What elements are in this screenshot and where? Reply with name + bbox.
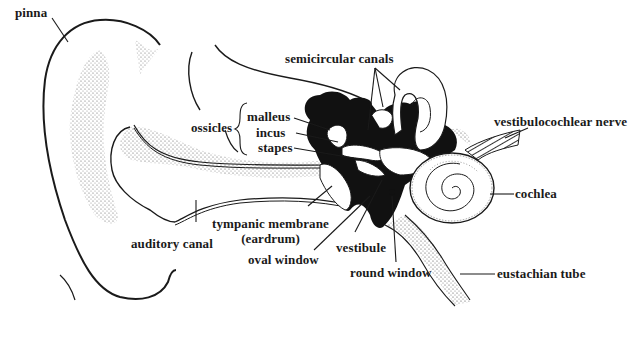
label-eardrum: (eardrum)	[208, 232, 333, 246]
label-ossicles: ossicles	[191, 121, 232, 135]
label-malleus: malleus	[247, 110, 290, 124]
label-semicircular-canals: semicircular canals	[285, 52, 394, 66]
label-tympanic-membrane: tympanic membrane	[208, 217, 333, 231]
leader-pinna	[52, 18, 68, 42]
label-round-window: round window	[350, 266, 432, 280]
ear-anatomy-diagram: pinna semicircular canals ossicles malle…	[0, 0, 644, 342]
round-window-dot	[389, 189, 395, 195]
cochlea-shape	[410, 153, 494, 223]
eustachian-tube-shape	[385, 215, 470, 306]
ossicles-brace	[235, 103, 247, 155]
label-auditory-canal: auditory canal	[131, 237, 213, 251]
label-pinna: pinna	[15, 6, 47, 20]
label-incus: incus	[256, 126, 285, 140]
label-stapes: stapes	[258, 141, 293, 155]
label-vestibulocochlear-nerve: vestibulocochlear nerve	[494, 115, 627, 129]
label-oval-window: oval window	[248, 253, 319, 267]
label-eustachian-tube: eustachian tube	[497, 267, 586, 281]
label-cochlea: cochlea	[515, 187, 557, 201]
label-vestibule: vestibule	[336, 241, 386, 255]
